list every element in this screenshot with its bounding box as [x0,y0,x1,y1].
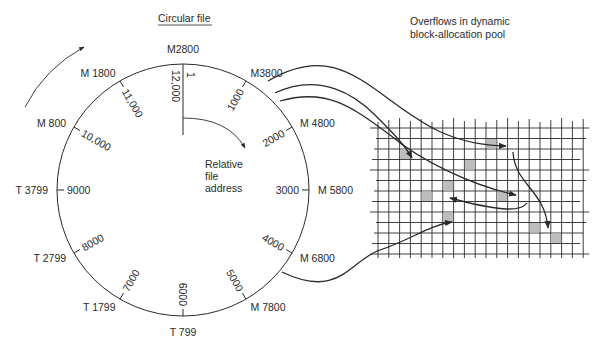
ring-inner-label: 11,000 [120,87,146,120]
ring-outer-label: T 3799 [16,184,49,196]
ring-outer-label: M 6800 [300,252,335,264]
ring-outer-label: T 1799 [83,301,116,313]
shaded-block [530,223,540,233]
ring-inner-label: 9000 [67,184,91,196]
ring-tick [74,127,80,131]
shaded-block [551,234,561,244]
shaded-block [465,160,475,170]
ring-inner-label: 2000 [260,127,286,149]
ring-end-label: 12,000 [170,70,182,102]
shaded-block [400,150,410,160]
ring-inner-label: 8000 [80,231,106,253]
ring-outer-label: M 7800 [251,301,286,313]
ring-outer-label: T 2799 [34,252,67,264]
ring-inner-label: 7000 [120,267,142,293]
diagram-title: Circular file [158,12,211,24]
shaded-block [443,181,453,191]
ring-inner-label: 4000 [260,231,286,253]
ring-tick [74,250,80,254]
ring-outer-label: T 799 [170,326,197,338]
shaded-block [487,139,497,149]
ring-inner-label: 5000 [224,267,246,293]
ring-outer-label: M 5800 [318,184,353,196]
overflow-link-2 [275,85,412,158]
ring-outer-label: M2800 [167,43,199,55]
ring-tick [243,81,247,87]
overflow-link-1 [268,65,506,146]
ring-inner-label: 10,000 [80,127,114,154]
relative-address-arrow-icon [183,118,245,148]
shaded-block [443,213,453,223]
center-caption-line-1: Relative [205,158,243,170]
ring-inner-label: 1000 [224,86,246,112]
center-caption-line-3: address [205,182,242,194]
ring-inner-label: 6000 [177,283,189,307]
pool-caption-line-1: Overflows in dynamic [410,15,510,27]
shaded-block [422,192,432,202]
circular-file-diagram: Circular file Overflows in dynamic block… [0,0,598,342]
overflow-chain-2 [450,198,527,209]
ring-inner-label: 3000 [276,184,300,196]
ring-tick [120,81,124,87]
rotation-direction-arrow-icon [25,47,84,107]
ring-tick [120,293,124,299]
ring-outer-label: M 4800 [300,117,335,129]
ring-tick [286,250,292,254]
pool-caption-line-2: block-allocation pool [410,28,505,40]
ring-tick [243,293,247,299]
ring-outer-label: M 800 [37,117,66,129]
center-caption-line-2: file [205,170,219,182]
ring-outer-label: M 1800 [80,67,115,79]
ring-start-label: 1 [185,72,197,78]
ring-tick [286,127,292,131]
ring-outer-label: M3800 [251,67,283,79]
